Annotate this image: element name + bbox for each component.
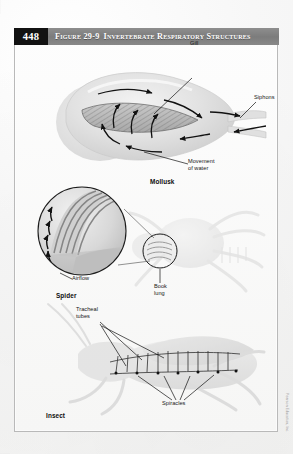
insect-label-tracheal-tubes: Tracheal tubes <box>76 306 98 320</box>
mollusk-illustration <box>14 48 279 188</box>
spider-organism-name: Spider <box>56 292 77 299</box>
figure-number-label: Figure 29-9 <box>55 32 99 41</box>
mollusk-organism-name: Mollusk <box>150 178 175 185</box>
insect-illustration <box>14 300 279 425</box>
mollusk-label-movement-of-water: Movement of water <box>188 158 215 172</box>
image-credit: Pearson Education, Inc. <box>285 393 289 432</box>
figure-title: Invertebrate Respiratory Structures <box>103 32 250 41</box>
page-number: 448 <box>14 28 48 45</box>
spider-illustration <box>14 185 279 310</box>
spider-label-airflow: Airflow <box>72 275 89 282</box>
insect-label-spiracles: Spiracles <box>162 400 185 407</box>
mollusk-label-gill: Gill <box>190 40 198 47</box>
panel-spider: Airflow Book lung Spider <box>14 185 279 310</box>
panel-insect: Tracheal tubes Spiracles Insect <box>14 300 279 425</box>
mollusk-label-siphons: Siphons <box>254 94 275 101</box>
figure-header: 448 Figure 29-9 Invertebrate Respiratory… <box>14 28 279 45</box>
panel-mollusk: Gill Siphons Movement of water Mollusk <box>14 48 279 188</box>
figure-header-bar: Figure 29-9 Invertebrate Respiratory Str… <box>48 28 279 45</box>
spider-label-book-lung: Book lung <box>154 283 167 297</box>
insect-organism-name: Insect <box>46 412 65 419</box>
